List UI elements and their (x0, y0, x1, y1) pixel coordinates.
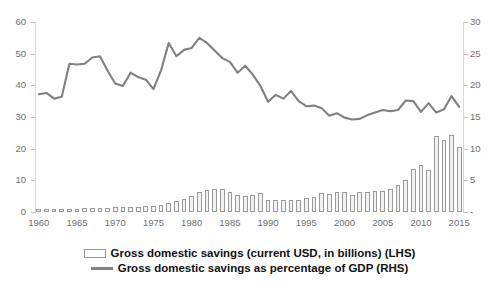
right-tick-30 (464, 22, 468, 23)
left-tick-label-0: 0 (21, 207, 26, 217)
x-tick-label-1980: 1980 (181, 218, 202, 228)
left-tick-50 (31, 54, 35, 55)
legend-item-bar-series: Gross domestic savings (current USD, in … (84, 247, 416, 260)
left-tick-20 (31, 149, 35, 150)
x-tick-label-1975: 1975 (143, 218, 164, 228)
right-tick-label-25: 25 (470, 49, 481, 59)
legend-label-bar-series: Gross domestic savings (current USD, in … (111, 247, 416, 260)
right-tick-10 (464, 149, 468, 150)
right-tick-label-10: 10 (470, 144, 481, 154)
bar-swatch-icon (84, 249, 106, 258)
right-tick-label-5: 5 (470, 175, 475, 185)
right-tick-15 (464, 117, 468, 118)
right-tick-5 (464, 180, 468, 181)
left-tick-label-40: 40 (15, 80, 26, 90)
right-tick-20 (464, 85, 468, 86)
right-tick-label-20: 20 (470, 80, 481, 90)
right-tick-label-30: 30 (470, 17, 481, 27)
plot-area (35, 22, 463, 212)
left-tick-label-50: 50 (15, 49, 26, 59)
left-tick-0 (31, 212, 35, 213)
x-tick-label-1990: 1990 (258, 218, 279, 228)
left-tick-30 (31, 117, 35, 118)
x-tick-label-2010: 2010 (410, 218, 431, 228)
line-swatch-icon (91, 267, 113, 270)
left-tick-10 (31, 180, 35, 181)
chart-legend: Gross domestic savings (current USD, in … (0, 247, 499, 275)
x-tick-label-1985: 1985 (219, 218, 240, 228)
right-tick-label-15: 15 (470, 112, 481, 122)
left-tick-label-20: 20 (15, 144, 26, 154)
left-tick-60 (31, 22, 35, 23)
right-tick-25 (464, 54, 468, 55)
x-tick-label-1970: 1970 (105, 218, 126, 228)
x-tick-label-2015: 2015 (449, 218, 470, 228)
right-tick-label-0: - (470, 207, 473, 217)
legend-label-line-series: Gross domestic savings as percentage of … (118, 262, 409, 275)
chart-container: 0102030405060 -51015202530 1960196519701… (0, 0, 499, 291)
left-tick-label-60: 60 (15, 17, 26, 27)
x-tick-label-1995: 1995 (296, 218, 317, 228)
right-tick-0 (464, 212, 468, 213)
left-tick-40 (31, 85, 35, 86)
x-tick-label-2000: 2000 (334, 218, 355, 228)
x-tick-label-1965: 1965 (66, 218, 87, 228)
left-tick-label-10: 10 (15, 175, 26, 185)
x-tick-label-1960: 1960 (28, 218, 49, 228)
x-tick-label-2005: 2005 (372, 218, 393, 228)
legend-item-line-series: Gross domestic savings as percentage of … (91, 262, 409, 275)
left-tick-label-30: 30 (15, 112, 26, 122)
